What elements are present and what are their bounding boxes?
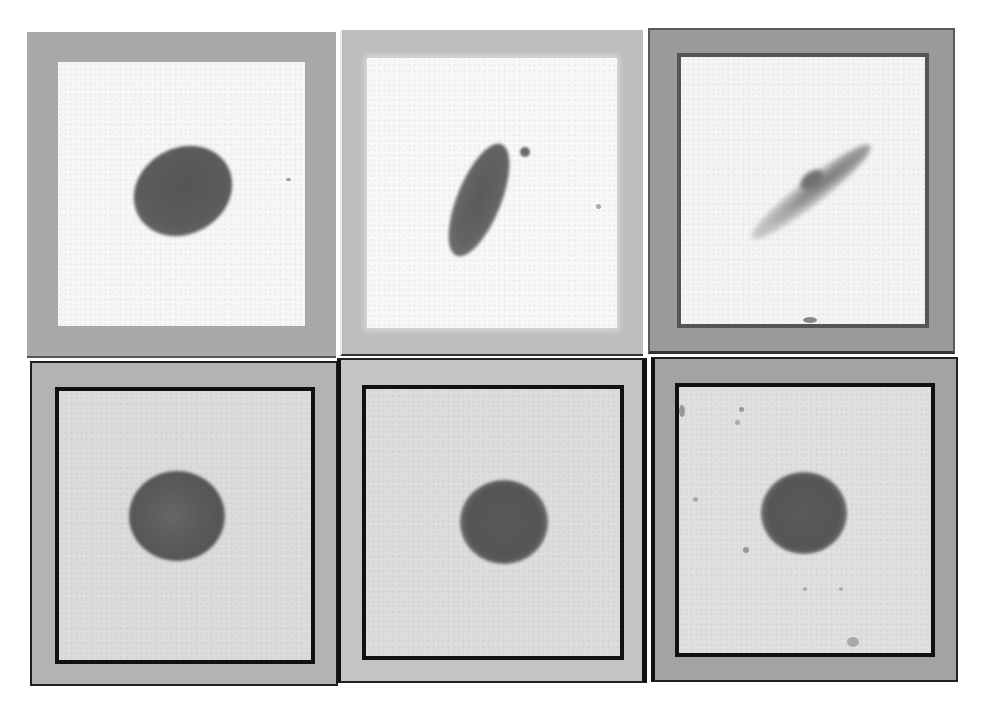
speck	[735, 420, 740, 425]
speck	[286, 178, 291, 181]
round-spot	[129, 471, 225, 561]
speck	[520, 147, 530, 157]
panel-bottom-left-field	[55, 387, 315, 664]
panel-top-middle	[340, 30, 643, 356]
elongated-blob	[436, 136, 522, 264]
speck	[847, 637, 859, 647]
speck	[803, 317, 817, 323]
panel-bottom-left	[30, 361, 338, 686]
round-spot	[460, 480, 548, 564]
speck	[743, 547, 749, 553]
speck	[739, 407, 744, 412]
diffuse-streak	[744, 136, 878, 249]
round-spot	[761, 472, 847, 554]
panel-bottom-right-field	[675, 383, 935, 657]
panel-bottom-middle-field	[362, 385, 624, 660]
speck	[679, 405, 685, 417]
speck	[596, 204, 601, 209]
oval-blob	[117, 128, 248, 253]
speck	[693, 497, 698, 502]
panel-top-right-field	[677, 53, 929, 328]
panel-top-middle-field	[367, 58, 617, 328]
speck	[803, 587, 807, 591]
panel-bottom-right	[651, 357, 958, 682]
panel-bottom-middle	[337, 358, 647, 683]
panel-top-left-field	[58, 62, 305, 326]
speck	[839, 587, 843, 591]
panel-top-right	[648, 28, 955, 354]
panel-top-left	[27, 32, 336, 358]
